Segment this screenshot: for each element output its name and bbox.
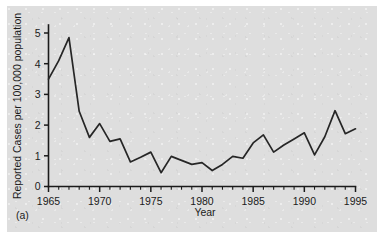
y-axis-title: Reported Cases per 100,000 population	[11, 13, 23, 199]
line-chart: 012345 1965197019751980198519901995 Year…	[0, 0, 384, 238]
y-tick-label: 2	[35, 119, 41, 131]
y-tick-label: 4	[35, 58, 41, 70]
x-tick-label: 1985	[241, 195, 265, 207]
x-tick-label: 1970	[88, 195, 112, 207]
y-tick-label: 0	[35, 180, 41, 192]
x-axis-tick-labels: 1965197019751980198519901995	[37, 195, 368, 207]
x-axis-ticks	[49, 187, 356, 193]
data-series-line	[49, 38, 356, 173]
x-tick-label: 1975	[139, 195, 163, 207]
x-axis-title: Year	[194, 206, 216, 218]
figure-panel-a: 012345 1965197019751980198519901995 Year…	[0, 0, 384, 238]
y-tick-label: 5	[35, 27, 41, 39]
y-tick-label: 3	[35, 88, 41, 100]
x-tick-label: 1980	[190, 195, 214, 207]
panel-label: (a)	[16, 209, 29, 221]
x-tick-label: 1995	[344, 195, 368, 207]
x-tick-label: 1990	[293, 195, 317, 207]
x-tick-label: 1965	[37, 195, 61, 207]
y-axis-tick-labels: 012345	[35, 27, 41, 193]
y-tick-label: 1	[35, 150, 41, 162]
